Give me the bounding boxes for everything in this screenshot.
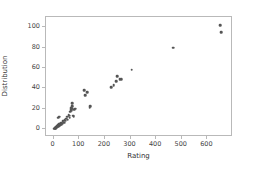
x-axis-tick-label: 100 — [72, 140, 84, 148]
x-axis-tick — [104, 136, 105, 139]
x-axis-tick-label: 200 — [98, 140, 110, 148]
scatter-plot-figure: Distribution 010020030040050060002040608… — [0, 0, 260, 180]
data-point — [115, 80, 118, 83]
data-point — [86, 91, 89, 94]
y-axis-tick-label: 60 — [32, 63, 40, 71]
y-axis-label: Distribution — [0, 16, 10, 136]
x-axis-tick — [206, 136, 207, 139]
data-point — [71, 102, 74, 105]
data-point — [113, 84, 116, 87]
data-point — [72, 115, 75, 118]
x-axis-label: Rating — [45, 152, 232, 160]
data-point — [84, 94, 87, 97]
data-point — [219, 24, 222, 27]
data-point — [131, 69, 134, 72]
x-axis-tick-label: 400 — [149, 140, 161, 148]
y-axis-tick-label: 80 — [32, 43, 40, 51]
x-axis-tick — [78, 136, 79, 139]
x-axis-tick-label: 300 — [123, 140, 135, 148]
data-point — [74, 107, 77, 110]
data-point — [68, 116, 71, 119]
y-axis-tick-label: 0 — [36, 124, 40, 132]
x-axis-tick — [181, 136, 182, 139]
data-points-layer — [46, 17, 231, 135]
plot-area — [45, 16, 232, 136]
y-axis-tick — [42, 47, 45, 48]
data-point — [220, 31, 223, 34]
data-point — [120, 78, 123, 81]
data-point — [58, 115, 61, 118]
y-axis-tick — [42, 108, 45, 109]
x-axis-tick — [155, 136, 156, 139]
y-axis-tick — [42, 26, 45, 27]
data-point — [116, 75, 119, 78]
data-point — [172, 46, 175, 49]
y-axis-tick-label: 100 — [28, 22, 40, 30]
data-point — [89, 105, 92, 108]
x-axis-tick-label: 600 — [200, 140, 212, 148]
x-axis-tick — [130, 136, 131, 139]
y-axis-label-text: Distribution — [1, 56, 9, 97]
y-axis-tick — [42, 67, 45, 68]
y-axis-tick — [42, 87, 45, 88]
y-axis-tick-label: 20 — [32, 104, 40, 112]
x-axis-tick-label: 0 — [51, 140, 55, 148]
x-axis-tick-label: 500 — [175, 140, 187, 148]
x-axis-tick — [53, 136, 54, 139]
y-axis-tick-label: 40 — [32, 83, 40, 91]
y-axis-tick — [42, 128, 45, 129]
